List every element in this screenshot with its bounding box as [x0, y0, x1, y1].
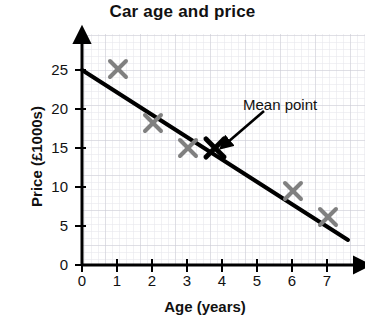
x-tick-label: 5 — [246, 272, 268, 289]
x-tick-label: 3 — [176, 272, 198, 289]
y-tick-label: 0 — [40, 256, 68, 273]
x-tick-label: 4 — [211, 272, 233, 289]
y-tick-label: 25 — [40, 61, 68, 78]
x-tick-label: 2 — [141, 272, 163, 289]
y-tick-label: 20 — [40, 100, 68, 117]
y-tick-label: 10 — [40, 178, 68, 195]
x-tick-label: 0 — [71, 272, 93, 289]
grid — [82, 34, 365, 265]
x-tick-label: 7 — [316, 272, 338, 289]
x-tick-label: 1 — [106, 272, 128, 289]
mean-point-annotation: Mean point — [243, 96, 317, 113]
x-tick-label: 6 — [281, 272, 303, 289]
chart-container: Car age and price Price (£1000s) Age (ye… — [0, 0, 365, 322]
y-tick-label: 5 — [40, 217, 68, 234]
y-tick-label: 15 — [40, 139, 68, 156]
